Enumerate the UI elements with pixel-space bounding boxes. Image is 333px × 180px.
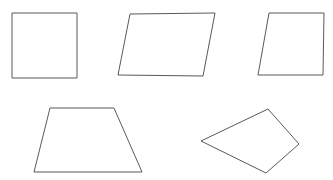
shapes-svg (0, 0, 333, 180)
shape-square (12, 13, 77, 78)
shape-slanted-parallelogram (258, 13, 324, 75)
figure-canvas (0, 0, 333, 180)
shape-parallelogram (118, 13, 215, 76)
